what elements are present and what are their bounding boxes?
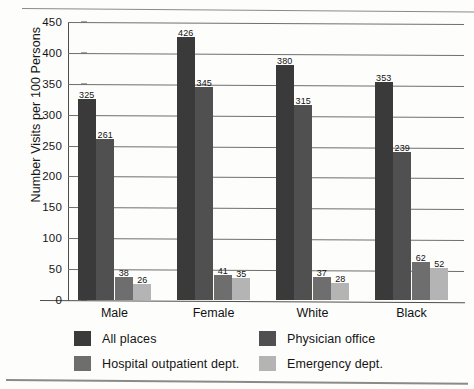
y-tick-label: 0 [55, 294, 62, 306]
legend-item[interactable]: All places [74, 331, 157, 346]
bar: 28 [331, 283, 349, 300]
bar-value-label: 62 [416, 254, 426, 263]
bar-group: 3532396252 [375, 22, 449, 300]
bar-group: 3803153728 [276, 22, 350, 300]
bar-group: 3252613826 [78, 22, 152, 300]
y-tick-label: 350 [42, 78, 62, 90]
bar-group: 4263454135 [177, 22, 251, 300]
bar: 426 [177, 37, 195, 300]
legend-swatch-icon [74, 356, 91, 371]
x-axis-line [40, 300, 465, 303]
bar-value-label: 325 [79, 91, 94, 100]
legend-label: Hospital outpatient dept. [102, 357, 239, 371]
legend-label: All places [102, 332, 157, 346]
bar: 315 [294, 105, 312, 300]
y-tick-label: 100 [42, 232, 62, 244]
legend-label: Emergency dept. [287, 357, 383, 371]
legend-swatch-icon [259, 331, 276, 346]
bar-value-label: 315 [296, 97, 311, 106]
y-tick-label: 150 [42, 201, 62, 213]
bar-value-label: 52 [434, 260, 444, 269]
bar: 239 [393, 152, 411, 300]
x-axis-label: White [297, 306, 329, 320]
legend-swatch-icon [74, 331, 91, 346]
bar: 353 [375, 82, 393, 300]
legend-item[interactable]: Emergency dept. [259, 356, 383, 371]
bar: 41 [214, 275, 232, 300]
bar-value-label: 37 [317, 269, 327, 278]
y-tick-label: 450 [42, 16, 62, 28]
y-tick-label: 250 [42, 140, 62, 152]
bar-value-label: 26 [137, 276, 147, 285]
legend-item[interactable]: Physician office [259, 331, 375, 346]
y-tick-label: 400 [42, 47, 62, 59]
bar-value-label: 345 [197, 79, 212, 88]
bar: 62 [412, 262, 430, 300]
bar-value-label: 426 [178, 29, 193, 38]
chart-legend: All placesPhysician officeHospital outpa… [74, 331, 454, 377]
y-axis-title: Number Visits per 100 Persons [29, 28, 43, 203]
legend-item[interactable]: Hospital outpatient dept. [74, 356, 239, 371]
x-axis-label: Female [193, 306, 235, 320]
bar: 261 [96, 139, 114, 300]
bar-value-label: 261 [98, 131, 113, 140]
y-tick-label: 300 [42, 109, 62, 121]
legend-label: Physician office [287, 332, 375, 346]
bar: 52 [430, 268, 448, 300]
bar-value-label: 239 [395, 144, 410, 153]
plot-area: 3252613826426345413538031537283532396252 [68, 22, 464, 300]
bar-value-label: 35 [236, 270, 246, 279]
y-tick-label: 50 [49, 263, 62, 275]
y-tick-label: 200 [42, 170, 62, 182]
legend-swatch-icon [259, 356, 276, 371]
bar: 26 [133, 284, 151, 300]
bar: 37 [313, 277, 331, 300]
bar: 325 [78, 99, 96, 300]
bar-value-label: 41 [218, 267, 228, 276]
x-axis-label: Black [396, 306, 427, 320]
x-axis-label: Male [101, 306, 128, 320]
bar: 38 [115, 277, 133, 300]
bar-value-label: 353 [376, 74, 391, 83]
bar-value-label: 38 [119, 269, 129, 278]
bar: 35 [232, 278, 250, 300]
bar: 345 [195, 87, 213, 300]
bar-value-label: 380 [277, 57, 292, 66]
bar: 380 [276, 65, 294, 300]
bar-value-label: 28 [335, 275, 345, 284]
